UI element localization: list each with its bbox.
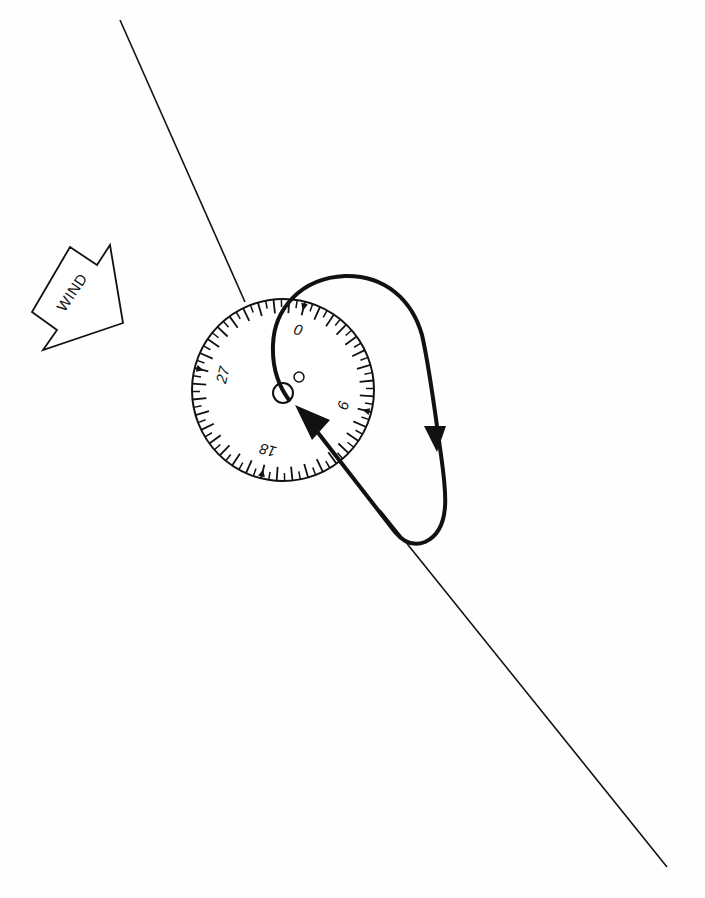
- course-line-lower: [380, 510, 667, 867]
- outbound-down-arrow-icon: [424, 426, 446, 452]
- diagram-canvas: WIND 091827: [0, 0, 705, 898]
- wind-arrow-icon: WIND: [32, 245, 123, 350]
- holding-pattern-diagram: WIND 091827: [0, 0, 705, 898]
- course-line-upper: [120, 20, 245, 302]
